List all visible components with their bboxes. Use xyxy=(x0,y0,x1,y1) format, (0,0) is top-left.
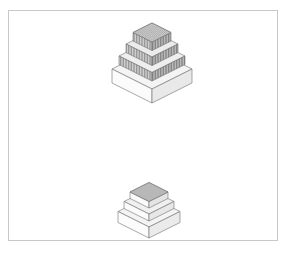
figure-svg xyxy=(0,0,289,254)
stepped-pyramid-small xyxy=(118,183,180,239)
stepped-pyramid-large xyxy=(112,23,192,103)
illustration-canvas: 3D Stepped Solids Illustration Large ste… xyxy=(0,0,289,254)
